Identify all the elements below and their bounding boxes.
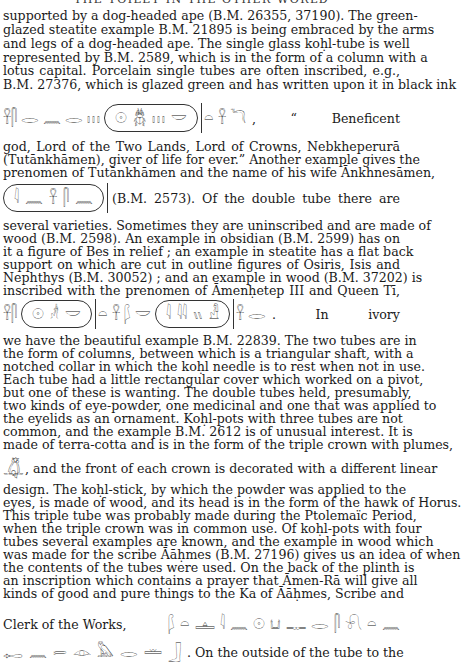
cartouche: 𓇋 𓇋𓇋 𓏭 𓁐 — [155, 300, 230, 328]
cloth-glyph-icon: 𓋴 — [334, 617, 340, 632]
ankh-glyph-icon: 𓋹 — [49, 191, 57, 206]
ankh-glyph-icon: 𓋹 — [236, 307, 244, 322]
seated-queen-glyph-icon: 𓁐 — [209, 307, 219, 322]
cartouche: 𓇋 𓈖 𓋹 𓋴 𓈖 — [3, 184, 104, 212]
reed-glyph-icon: 𓇋 — [14, 191, 19, 206]
water-glyph-icon: 𓈖 — [43, 111, 61, 126]
text-line: supported by a dog-headed ape (B.M. 2635… — [3, 9, 400, 23]
text-fragment: , and the front of each crown is decorat… — [24, 461, 437, 476]
text-line: lotus capital. Porcelain single tubes ar… — [3, 64, 400, 78]
sun-disk-glyph-icon: 𓇳 — [253, 617, 265, 632]
canal-glyph-icon: 𓉻 — [3, 645, 23, 660]
water-glyph-icon: 𓈖 — [75, 191, 93, 206]
sun-disk-glyph-icon: 𓇳 — [32, 307, 44, 322]
text-fragment: , “ Beneficent — [246, 111, 400, 126]
hieroglyph-group: 𓆄 𓏏 𓊵 𓇋 𓈖 𓇳 𓂓 𓊃 𓂋 𓋴 𓍯 𓏏 𓈖 — [162, 617, 400, 632]
bolt-glyph-icon: 𓊃 — [286, 617, 306, 632]
hieroglyph-line-2: 𓇋 𓈖 𓋹 𓋴 𓈖 (B.M. 2573). Of the double tub… — [3, 182, 400, 214]
water-glyph-icon: 𓈖 — [230, 617, 248, 632]
hieroglyph-group: 𓉻 𓈖 𓍿 𓁹 𓅓 𓂋 𓏛 𓃀 — [3, 645, 181, 660]
seated-goddess-glyph-icon: 𓁦 — [50, 307, 59, 322]
column-glyph-icon: 𓏛 — [144, 645, 162, 660]
offering-table-glyph-icon: 𓊵 — [195, 617, 215, 632]
dual-strokes-glyph-icon: 𓏭 — [193, 307, 203, 322]
bread-glyph-icon: 𓏏 — [367, 617, 377, 632]
ankh-sceptre-glyph-icon: 𓋹𓋴 — [3, 111, 17, 126]
text-line: glazed steatite example B.M. 21895 is be… — [3, 23, 400, 37]
text-line: kinds of good and pure things to the Ka … — [3, 587, 400, 601]
hieroglyph-group: 𓇋 𓈖 𓋹 𓋴 𓈖 — [3, 184, 106, 212]
seated-man-glyph-icon: 𓁹 — [73, 645, 91, 660]
text-line: inscribed with the prenomen of Āmenḥetep… — [3, 284, 400, 298]
text-line: B.M. 27376, which is glazed green and ha… — [3, 78, 400, 92]
mouth-glyph-icon: 𓂋 — [65, 111, 83, 126]
text-fragment: . On the outside of the tube to the — [181, 645, 404, 660]
water-glyph-icon: 𓈖 — [25, 191, 43, 206]
cone-glyph-icon: 𓏏 — [180, 617, 190, 632]
hieroglyph-group: 𓋹𓋴 𓂋 𓈖 𓂋 𓏥 𓇳 𓆣 𓏥 𓎟 𓏏 𓋹 𓆓 — [3, 104, 246, 132]
rope-glyph-icon: 𓍯 — [345, 617, 362, 632]
sceptre-glyph-icon: 𓆄 — [168, 617, 175, 632]
text-line: prenomen of Tutānkhāmen and the name of … — [3, 166, 400, 180]
crown-line: 𓋚 , and the front of each crown is decor… — [3, 456, 400, 480]
water-glyph-icon: 𓈖 — [382, 617, 400, 632]
cone-glyph-icon: 𓏏 — [98, 307, 108, 322]
ankh-glyph-icon: 𓋹 — [112, 307, 120, 322]
sun-disk-glyph-icon: 𓇳 — [115, 111, 127, 126]
ankh-glyph-icon: 𓋹 — [218, 111, 226, 126]
text-fragment: Clerk of the Works, — [3, 617, 126, 632]
triple-crown-glyph-icon: 𓋚 — [3, 459, 24, 477]
cone-glyph-icon: 𓏏 — [204, 111, 214, 126]
scarab-glyph-icon: 𓆣 — [133, 111, 146, 126]
cartouche: 𓇳 𓁦 𓎟 — [21, 300, 92, 328]
eye-glyph-icon: 𓂋 — [120, 645, 138, 660]
ankh-sceptre-glyph-icon: 𓋹𓋴 — [3, 307, 17, 322]
hieroglyph-line-1: 𓋹𓋴 𓂋 𓈖 𓂋 𓏥 𓇳 𓆣 𓏥 𓎟 𓏏 𓋹 𓆓 , “ Beneficent — [3, 100, 400, 136]
sceptre-glyph-icon: 𓆄 — [124, 307, 131, 322]
hook-glyph-icon: 𓍿 — [53, 645, 67, 660]
plural-strokes-glyph-icon: 𓏥 — [152, 111, 165, 126]
water-glyph-icon: 𓈖 — [29, 645, 47, 660]
serpent-glyph-icon: 𓆓 — [230, 111, 246, 126]
basket-glyph-icon: 𓎟 — [135, 307, 151, 322]
final-line: 𓉻 𓈖 𓍿 𓁹 𓅓 𓂋 𓏛 𓃀 . On the outside of the … — [3, 638, 400, 666]
mouth-glyph-icon: 𓂋 — [248, 307, 266, 322]
text-fragment: (B.M. 2573). Of the double tube there ar… — [106, 191, 400, 206]
plural-strokes-glyph-icon: 𓏥 — [87, 111, 100, 126]
basket-glyph-icon: 𓎟 — [65, 307, 81, 322]
mouth-glyph-icon: 𓂋 — [311, 617, 329, 632]
double-reed-glyph-icon: 𓇋𓇋 — [177, 307, 187, 322]
text-fragment: . In ivory — [266, 307, 400, 322]
cartouche: 𓇳 𓆣 𓏥 𓎟 — [104, 104, 198, 132]
reed-glyph-icon: 𓇋 — [220, 617, 225, 632]
basket-glyph-icon: 𓎟 — [171, 111, 187, 126]
hieroglyph-line-3: 𓋹𓋴 𓇳 𓁦 𓎟 𓏏 𓋹 𓆄 𓎟 𓇋 𓇋𓇋 𓏭 𓁐 𓋹 𓂋 . In ivory — [3, 298, 400, 330]
text-line: made of terra-cotta and is in the form o… — [3, 438, 400, 452]
text-line: and legs of a dog-headed ape. The single… — [3, 37, 400, 51]
clerk-line: Clerk of the Works, 𓆄 𓏏 𓊵 𓇋 𓈖 𓇳 𓂓 𓊃 𓂋 𓋴 … — [3, 612, 400, 636]
scribe-palette-glyph-icon: 𓅓 — [97, 645, 114, 660]
sledge-glyph-icon: 𓃀 — [168, 645, 181, 660]
mouth-glyph-icon: 𓂋 — [21, 111, 39, 126]
running-head: THE TOILET IN THE OTHER WORLD — [0, 0, 403, 6]
arms-glyph-icon: 𓂓 — [270, 617, 281, 632]
cloth-glyph-icon: 𓋴 — [63, 191, 69, 206]
hieroglyph-group: 𓋹𓋴 𓇳 𓁦 𓎟 𓏏 𓋹 𓆄 𓎟 𓇋 𓇋𓇋 𓏭 𓁐 𓋹 𓂋 — [3, 300, 266, 328]
reed-glyph-icon: 𓇋 — [166, 307, 171, 322]
